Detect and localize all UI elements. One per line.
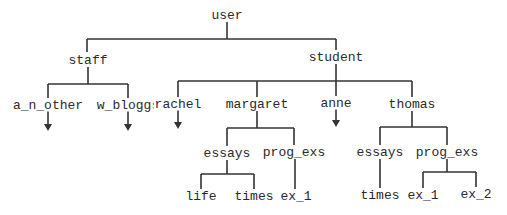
node-anne: anne xyxy=(319,97,352,110)
arrow-rachel xyxy=(174,110,182,129)
node-thomas: thomas xyxy=(388,98,437,111)
node-margaret-times: times xyxy=(233,190,274,203)
node-margaret: margaret xyxy=(225,98,289,111)
node-user: user xyxy=(210,9,243,22)
node-margaret-prog-exs: prog_exs xyxy=(262,146,326,159)
node-thomas-prog-exs: prog_exs xyxy=(415,146,479,159)
node-margaret-ex-1: ex_1 xyxy=(279,190,312,203)
arrow-a-n-other xyxy=(44,111,52,131)
node-thomas-essays: essays xyxy=(356,146,405,159)
node-rachel: rachel xyxy=(154,98,203,111)
node-thomas-times: times xyxy=(359,189,400,202)
node-thomas-ex-2: ex_2 xyxy=(459,188,492,201)
node-staff: staff xyxy=(67,54,108,67)
node-w-bloggs: w_bloggs xyxy=(96,99,160,112)
directory-tree: user staff student a_n_other w_bloggs ra… xyxy=(0,0,507,215)
node-student: student xyxy=(308,51,365,64)
node-a-n-other: a_n_other xyxy=(12,99,84,112)
node-thomas-ex-1: ex_1 xyxy=(406,189,439,202)
node-margaret-life: life xyxy=(184,190,217,203)
arrow-anne xyxy=(332,109,340,127)
arrow-w-bloggs xyxy=(124,111,132,131)
node-margaret-essays: essays xyxy=(203,147,252,160)
